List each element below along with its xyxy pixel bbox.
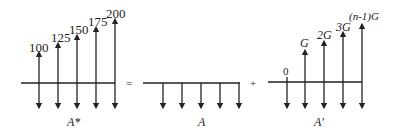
diagram-a-prime: 0 G 2G 3G (n-1)G A'	[268, 10, 379, 129]
gradient-value-label: 2G	[317, 28, 332, 42]
gradient-value-label: 0	[283, 65, 289, 77]
gradient-value-label: 3G	[335, 20, 351, 34]
diagram-label: A	[197, 115, 206, 129]
cash-value-label: 100	[29, 40, 49, 55]
cash-value-label: 175	[88, 14, 108, 29]
plus-sign: +	[250, 77, 256, 89]
gradient-value-label: G	[300, 36, 309, 50]
cash-flow-diagram: 100 125 150 175 200 A* = A + 0 G	[0, 0, 400, 132]
gradient-value-label: (n-1)G	[349, 10, 379, 23]
diagram-label: A*	[66, 115, 80, 129]
cash-value-label: 150	[69, 22, 89, 37]
diagram-label: A'	[313, 115, 324, 129]
diagram-a-star: 100 125 150 175 200 A*	[21, 6, 126, 129]
equals-sign: =	[126, 77, 132, 89]
cash-value-label: 125	[51, 30, 71, 45]
diagram-a: A	[143, 83, 240, 129]
cash-value-label: 200	[106, 6, 126, 21]
